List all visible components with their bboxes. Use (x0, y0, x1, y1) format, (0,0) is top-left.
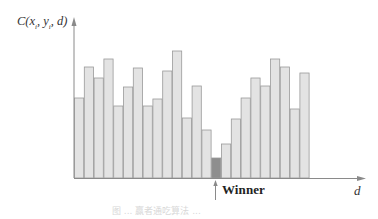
bar (202, 130, 211, 178)
bar (104, 59, 113, 178)
bar (271, 59, 280, 178)
bar (222, 144, 231, 178)
y-label-fn: C( (17, 14, 30, 28)
bar (124, 87, 133, 178)
x-axis-arrow-icon (357, 176, 366, 181)
y-label-d: , d) (51, 14, 68, 28)
bar (261, 86, 270, 178)
bar (251, 78, 260, 178)
bar-series (75, 51, 310, 178)
bar (173, 51, 182, 178)
y-axis-arrow-icon (72, 17, 77, 26)
bar (231, 119, 240, 178)
bar (280, 67, 289, 178)
y-axis-label: C(xi, yi, d) (17, 14, 67, 31)
bar (75, 98, 84, 178)
bar (192, 86, 201, 178)
bar (241, 98, 250, 178)
bar (153, 99, 162, 178)
chart-canvas (0, 0, 378, 219)
bar (300, 73, 309, 178)
winner-annotation: Winner (222, 182, 265, 198)
winner-arrow-head-icon (213, 180, 217, 186)
bar (163, 71, 172, 178)
bar (133, 68, 142, 178)
bar (114, 106, 123, 178)
bar (143, 106, 152, 178)
figure-caption: 图 ... 赢者通吃算法 ... (112, 204, 201, 217)
x-axis-label: d (354, 183, 361, 199)
bar (290, 109, 299, 178)
bar (94, 78, 103, 178)
bar (84, 67, 93, 178)
bar (182, 118, 191, 178)
winner-bar (212, 158, 221, 178)
